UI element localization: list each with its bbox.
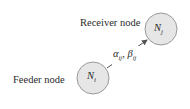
receiver-node-symbol: Nj [154, 22, 163, 36]
receiver-node-label: Receiver node [80, 17, 140, 28]
feeder-node-label: Feeder node [13, 74, 65, 85]
feeder-node-symbol: Ni [87, 70, 96, 84]
edge-parameters-label: αij, βij [113, 48, 136, 61]
network-diagram: Receiver node Nj Feeder node Ni αij, βij [0, 0, 190, 109]
